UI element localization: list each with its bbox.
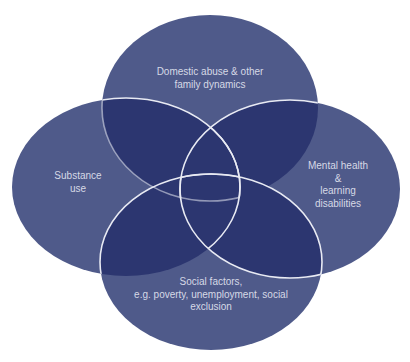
label-substance-use: Substance use xyxy=(54,170,101,195)
label-mental-health: Mental health & learning disabilities xyxy=(308,160,368,210)
label-domestic-abuse: Domestic abuse & other family dynamics xyxy=(157,66,264,91)
label-social-factors: Social factors, e.g. poverty, unemployme… xyxy=(134,276,288,314)
